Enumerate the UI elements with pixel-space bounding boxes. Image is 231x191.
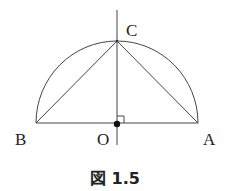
label-B: B	[15, 130, 26, 149]
point-O-dot	[114, 121, 120, 127]
figure-caption: 図 1.5	[90, 169, 140, 188]
chord-CA	[117, 41, 198, 123]
label-C: C	[126, 21, 137, 40]
label-O: O	[97, 130, 109, 149]
chord-CB	[36, 41, 117, 123]
point-C-dot	[116, 40, 118, 42]
label-A: A	[203, 130, 216, 149]
semicircle-diagram: C B O A 図 1.5	[0, 0, 231, 191]
